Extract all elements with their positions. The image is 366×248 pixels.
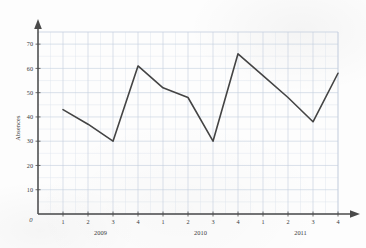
y-tick-label: 20 bbox=[27, 162, 33, 169]
x-tick-label: 4 bbox=[236, 218, 239, 225]
x-tick-label: 3 bbox=[311, 218, 314, 225]
x-tick-label: 4 bbox=[136, 218, 139, 225]
y-tick-label: 60 bbox=[27, 65, 33, 72]
y-tick-label: 30 bbox=[27, 137, 33, 144]
x-tick-label: 3 bbox=[211, 218, 214, 225]
y-axis-tick-labels: 10203040506070 bbox=[27, 40, 33, 193]
y-axis-title: Absences bbox=[14, 115, 21, 141]
x-tick-label: 1 bbox=[261, 218, 264, 225]
x-tick-label: 2 bbox=[186, 218, 189, 225]
grid-major-lines bbox=[38, 32, 338, 214]
y-tick-label: 10 bbox=[27, 186, 33, 193]
x-axis-arrowhead bbox=[350, 210, 360, 218]
absences-line-chart: 10203040506070 123412341234 200920102011… bbox=[0, 0, 366, 248]
x-axis-year-label: 2009 bbox=[94, 229, 107, 236]
x-tick-label: 4 bbox=[336, 218, 339, 225]
y-tick-label: 50 bbox=[27, 89, 33, 96]
x-tick-label: 2 bbox=[86, 218, 89, 225]
x-axis-year-labels: 200920102011 bbox=[94, 229, 307, 236]
y-tick-label: 70 bbox=[27, 40, 33, 47]
x-axis-year-label: 2010 bbox=[194, 229, 207, 236]
y-axis-arrowhead bbox=[34, 19, 42, 29]
y-tick-label: 40 bbox=[27, 113, 33, 120]
x-tick-label: 3 bbox=[111, 218, 114, 225]
x-tick-label: 2 bbox=[286, 218, 289, 225]
x-axis-tick-labels: 123412341234 bbox=[61, 218, 339, 225]
axes bbox=[34, 19, 360, 218]
x-tick-label: 1 bbox=[61, 218, 64, 225]
x-axis-year-label: 2011 bbox=[294, 229, 307, 236]
x-tick-label: 1 bbox=[161, 218, 164, 225]
origin-label: 0 bbox=[29, 216, 33, 223]
